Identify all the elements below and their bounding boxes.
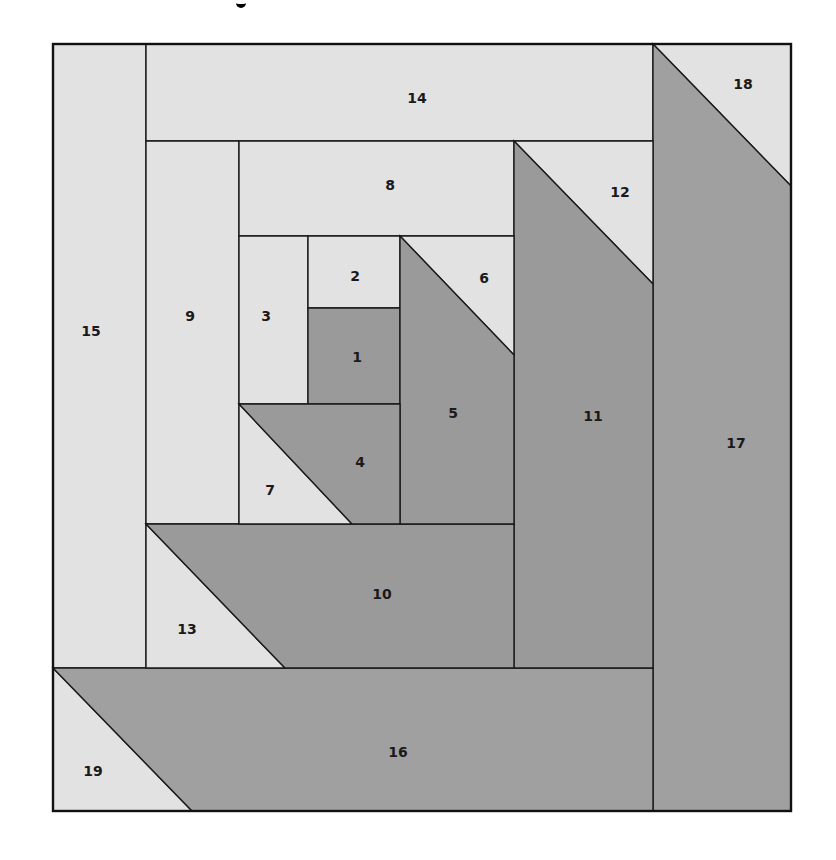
piece-label-18: 18 <box>733 76 752 92</box>
quilt-pieces <box>53 44 791 811</box>
piece-label-4: 4 <box>355 454 365 470</box>
piece-label-11: 11 <box>583 408 602 424</box>
piece-label-2: 2 <box>350 268 360 284</box>
piece-label-8: 8 <box>385 177 395 193</box>
piece-15 <box>53 44 146 668</box>
piece-3 <box>239 236 308 404</box>
piece-label-16: 16 <box>388 744 407 760</box>
quilt-block-diagram: 15141817191698121113103216574 <box>0 0 836 860</box>
piece-label-13: 13 <box>177 621 196 637</box>
piece-label-10: 10 <box>372 586 392 602</box>
piece-label-7: 7 <box>265 482 275 498</box>
piece-label-5: 5 <box>448 405 458 421</box>
piece-8 <box>239 141 514 236</box>
piece-label-1: 1 <box>352 349 362 365</box>
piece-label-14: 14 <box>407 90 427 106</box>
piece-14 <box>146 44 653 141</box>
piece-label-12: 12 <box>610 184 629 200</box>
piece-9 <box>146 141 239 524</box>
piece-label-3: 3 <box>261 308 271 324</box>
piece-label-15: 15 <box>81 323 100 339</box>
piece-label-17: 17 <box>726 435 745 451</box>
piece-label-9: 9 <box>185 308 195 324</box>
piece-label-6: 6 <box>479 270 489 286</box>
piece-label-19: 19 <box>83 763 102 779</box>
